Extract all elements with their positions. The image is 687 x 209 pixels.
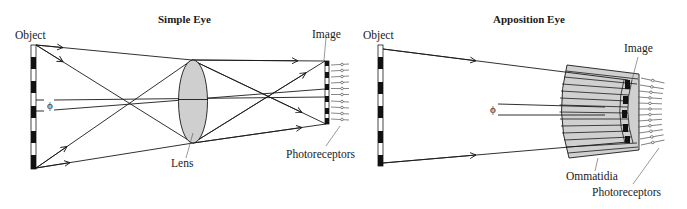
ommatidia-label: Ommatidia — [566, 171, 618, 183]
apposition-object-label: Object — [363, 30, 394, 42]
photoreceptor-leader — [326, 126, 340, 146]
apposition-photoreceptors — [638, 77, 665, 147]
simple-image-bar — [325, 61, 329, 124]
simple-object-label: Object — [15, 30, 46, 42]
simple-photoreceptors — [331, 63, 349, 121]
apposition-image-label: Image — [624, 43, 653, 55]
apposition-object-bar — [378, 45, 383, 166]
simple-phi-label: ϕ — [47, 100, 53, 111]
apposition-phi-label: ϕ — [490, 104, 496, 115]
image-leader — [324, 38, 326, 60]
simple-photoreceptors-label: Photoreceptors — [286, 149, 355, 161]
apposition-eye-panel — [378, 45, 665, 184]
simple-object-bar — [31, 45, 36, 169]
apposition-photoreceptor-leader — [633, 148, 659, 184]
apposition-eye-title: Apposition Eye — [493, 14, 565, 25]
apposition-photoreceptors-label: Photoreceptors — [592, 187, 661, 199]
lens-label: Lens — [171, 158, 193, 170]
simple-eye-title: Simple Eye — [158, 14, 211, 25]
lens — [179, 60, 208, 143]
simple-image-label: Image — [312, 29, 341, 41]
